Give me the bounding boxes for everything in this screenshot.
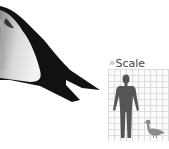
scale-header: » Scale bbox=[109, 56, 145, 70]
duck-silhouette-icon bbox=[144, 119, 166, 139]
double-chevron-right-icon: » bbox=[109, 58, 113, 68]
bird-tail-image bbox=[0, 0, 105, 105]
human-silhouette-icon bbox=[111, 74, 141, 141]
scale-title: Scale bbox=[115, 58, 145, 69]
